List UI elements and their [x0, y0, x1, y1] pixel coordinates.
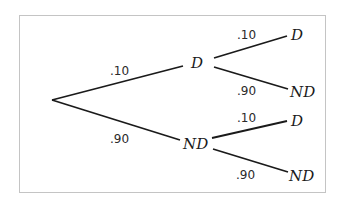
probability-tree: .10 .90 D ND .10 .90 .10 .90 D ND D ND	[0, 0, 342, 208]
prob-nd-nd: .90	[236, 168, 255, 182]
leaf-d-nd: ND	[289, 83, 315, 101]
prob-d-nd: .90	[237, 84, 256, 98]
leaf-d-d: D	[290, 26, 303, 44]
prob-root-d: .10	[110, 64, 129, 78]
leaf-nd-d: D	[290, 112, 303, 130]
prob-nd-d: .10	[237, 111, 256, 125]
prob-root-nd: .90	[110, 132, 129, 146]
prob-d-d: .10	[237, 28, 256, 42]
leaf-nd-nd: ND	[288, 167, 314, 185]
node-nd: ND	[182, 135, 208, 153]
node-d: D	[190, 54, 203, 72]
